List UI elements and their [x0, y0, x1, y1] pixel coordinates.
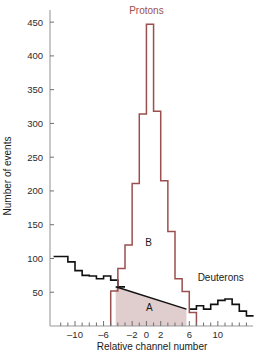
deuterons-label: Deuterons	[198, 272, 244, 283]
y-tick-label: 250	[27, 152, 43, 163]
x-tick-label: –10	[67, 329, 83, 340]
y-tick-label: 150	[27, 219, 43, 230]
x-tick-label: –2	[127, 329, 138, 340]
y-tick-label: 450	[27, 17, 43, 28]
y-tick-label: 400	[27, 50, 43, 61]
x-axis-title: Relative channel number	[97, 341, 208, 352]
x-tick-label: 0	[144, 329, 149, 340]
y-tick-label: 200	[27, 185, 43, 196]
y-axis-title: Number of events	[2, 137, 13, 216]
protons-label: Protons	[129, 5, 163, 16]
y-tick-label: 350	[27, 84, 43, 95]
y-tick-label: 100	[27, 253, 43, 264]
x-tick-label: –6	[98, 329, 109, 340]
y-axis-tick-labels: 50100150200250300350400450	[27, 17, 43, 298]
events-vs-channel-chart: 50100150200250300350400450 –10–6–202610 …	[0, 0, 255, 352]
x-tick-label: 10	[213, 329, 224, 340]
x-tick-label: 2	[158, 329, 163, 340]
x-tick-label: 6	[187, 329, 192, 340]
y-tick-label: 300	[27, 118, 43, 129]
y-tick-label: 50	[32, 287, 43, 298]
region-b-label: B	[145, 237, 152, 248]
region-a-label: A	[146, 302, 153, 313]
